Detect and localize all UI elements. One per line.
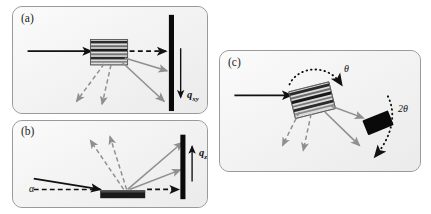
sample-c [289,82,336,119]
theta-rotation-arc-c [290,70,341,85]
q-xy-label: qxy [187,89,199,103]
q-z-label: qz [199,147,207,161]
panel-c: (c) [219,50,421,172]
scattered-beam-a-3 [77,64,104,101]
scattered-beam-a-1 [125,58,167,71]
panel-b: (b) [12,120,208,208]
scattered-beam-b-2 [130,170,181,190]
incident-beam-b [34,179,100,190]
scattered-beam-c-1 [331,106,363,118]
detector-a [169,15,174,111]
sample-a [90,39,127,65]
detector-b [180,135,185,200]
panel-a: (a) [12,6,208,114]
scattered-beam-b-1 [128,143,183,190]
scattered-beam-c-2 [325,112,359,145]
scattering-geometry-figure: (a) [0,0,431,214]
scattered-beam-a-4 [102,65,111,104]
scattered-beam-c-4 [303,114,311,150]
panel-b-diagram [13,121,207,207]
alpha-label: α [29,183,34,194]
two-theta-label: 2θ [398,103,408,114]
panel-a-diagram [13,7,207,113]
panel-c-diagram [220,51,420,171]
theta-label: θ [344,63,349,74]
